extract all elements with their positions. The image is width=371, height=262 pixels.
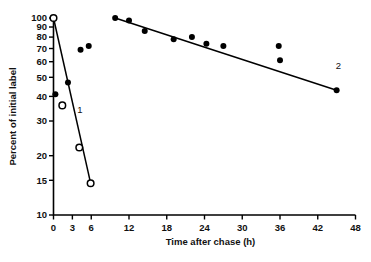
scatter-plot-canvas: 1015203040506070809010003612182430364248… (0, 0, 371, 262)
x-tick-label: 30 (237, 222, 248, 233)
data-point-series-1 (76, 144, 83, 151)
y-tick-label: 15 (36, 175, 47, 186)
data-point-series-2 (189, 34, 195, 40)
data-point-series-2 (220, 43, 226, 49)
x-tick-label: 3 (70, 222, 75, 233)
y-tick-label: 100 (31, 12, 47, 23)
x-tick-label: 18 (161, 222, 172, 233)
y-tick-label: 50 (36, 72, 47, 83)
data-point-series-2 (78, 47, 84, 53)
y-axis-title: Percent of initial label (7, 67, 18, 165)
x-tick-label: 0 (51, 222, 56, 233)
data-point-series-2 (171, 36, 177, 42)
x-axis-title: Time after chase (h) (166, 236, 256, 247)
y-tick-label: 40 (36, 91, 47, 102)
data-point-series-1 (50, 15, 57, 22)
chart-figure: 1015203040506070809010003612182430364248… (0, 0, 371, 262)
curve-annotation-2: 2 (336, 60, 341, 71)
x-tick-label: 36 (275, 222, 286, 233)
data-point-series-2 (277, 57, 283, 63)
data-point-series-2 (334, 87, 340, 93)
curve-annotation-1: 1 (77, 104, 82, 115)
data-point-series-1 (87, 180, 94, 187)
series-fit-line-2 (115, 18, 336, 90)
data-point-series-1 (59, 102, 66, 109)
x-tick-label: 12 (124, 222, 135, 233)
data-point-series-2 (52, 91, 58, 97)
y-tick-label: 20 (36, 150, 47, 161)
data-point-series-2 (65, 80, 71, 86)
series-fit-line-1 (54, 18, 91, 183)
y-tick-label: 80 (36, 31, 47, 42)
x-tick-label: 48 (350, 222, 361, 233)
y-tick-label: 30 (36, 115, 47, 126)
data-point-series-2 (203, 41, 209, 47)
x-tick-label: 42 (312, 222, 323, 233)
data-point-series-2 (142, 28, 148, 34)
data-point-series-2 (126, 18, 132, 24)
y-tick-label: 60 (36, 56, 47, 67)
data-point-series-2 (276, 43, 282, 49)
data-point-series-2 (112, 15, 118, 21)
data-point-series-2 (86, 43, 92, 49)
x-tick-label: 24 (199, 222, 210, 233)
y-tick-label: 10 (36, 209, 47, 220)
x-tick-label: 6 (89, 222, 94, 233)
y-tick-label: 70 (36, 43, 47, 54)
